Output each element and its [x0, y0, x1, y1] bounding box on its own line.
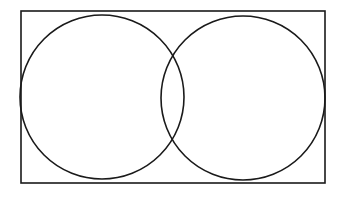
set-a-circle — [20, 15, 184, 179]
set-b-circle — [161, 16, 325, 180]
venn-diagram — [0, 0, 345, 198]
universe-rectangle — [21, 11, 325, 183]
